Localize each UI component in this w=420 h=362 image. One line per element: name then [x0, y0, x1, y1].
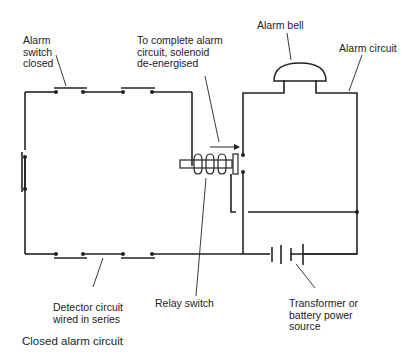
- label-solenoid-note: To complete alarm circuit, solenoid de-e…: [137, 35, 223, 70]
- label-alarm-circuit: Alarm circuit: [339, 43, 397, 55]
- detector-circuit-left: [22, 152, 25, 254]
- label-alarm-bell: Alarm bell: [257, 20, 304, 32]
- label-detector-circuit: Detector circuit wired in series: [53, 302, 123, 325]
- label-power-source: Transformer or battery power source: [289, 298, 358, 333]
- battery-symbol: [272, 244, 357, 265]
- junction-dots: [23, 90, 359, 256]
- solenoid-relay: [180, 144, 240, 212]
- diagram-title: Closed alarm circuit: [22, 335, 123, 347]
- leader-lines: [56, 33, 362, 296]
- label-alarm-switch: Alarm switch closed: [23, 35, 53, 70]
- alarm-circuit: [240, 63, 357, 254]
- label-relay-switch: Relay switch: [155, 298, 214, 310]
- detector-circuit-top: [25, 88, 192, 166]
